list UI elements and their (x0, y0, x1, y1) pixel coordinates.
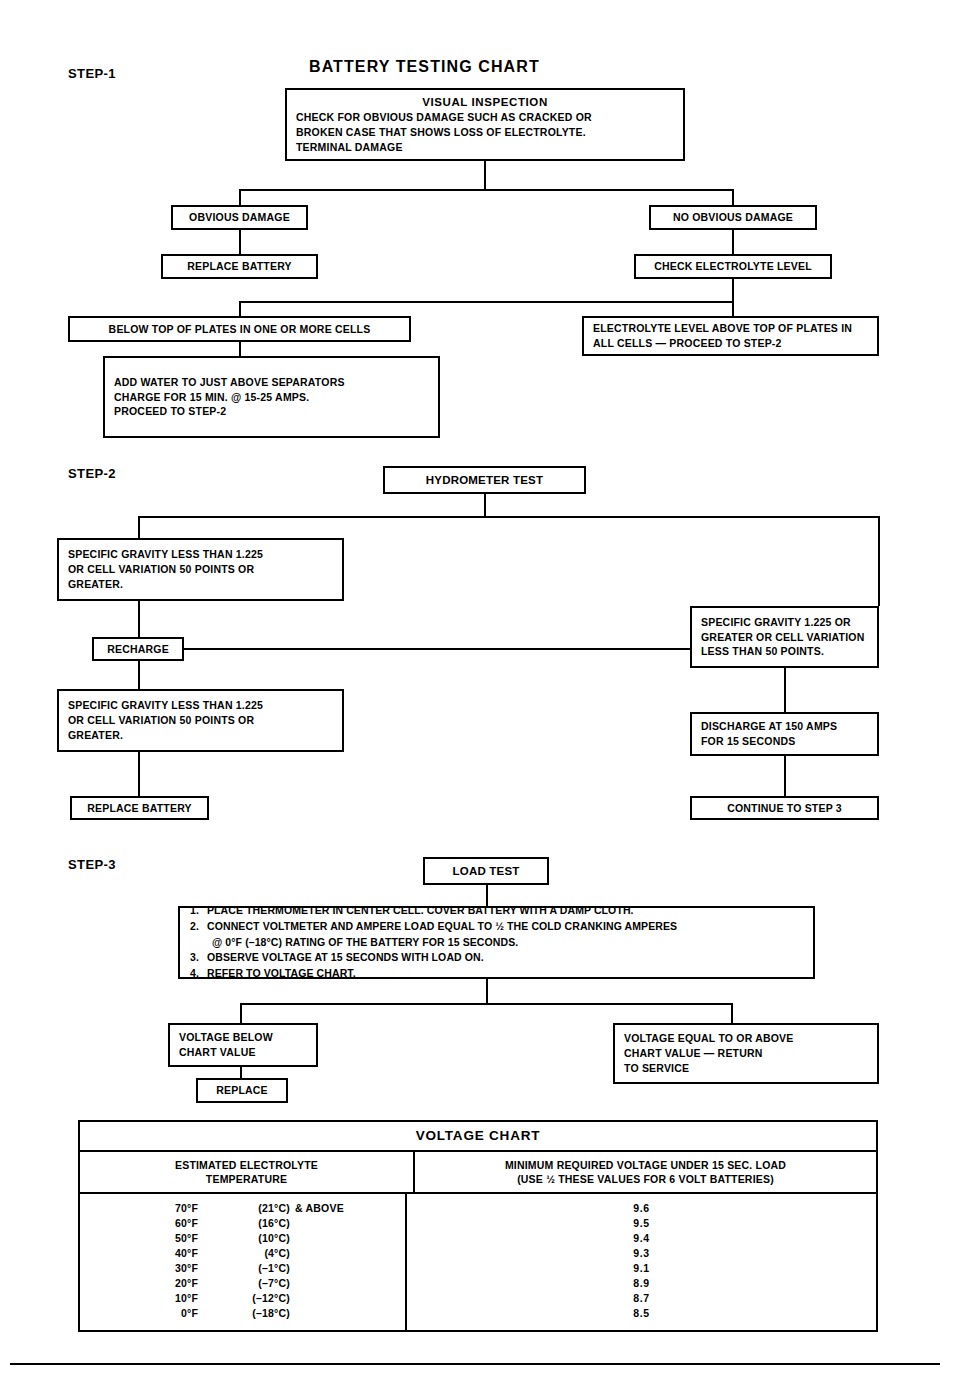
temperature-fahrenheit: 50°F (80, 1231, 198, 1246)
temp-header-line1: ESTIMATED ELECTROLYTE (84, 1158, 409, 1172)
instruction-number: 4. (190, 966, 207, 982)
node-electrolyte-above-plates: ELECTROLYTE LEVEL ABOVE TOP OF PLATES IN… (582, 316, 879, 356)
connector-hydro-split (138, 516, 880, 518)
node-load-test: LOAD TEST (423, 857, 549, 885)
node-low-gravity-1: SPECIFIC GRAVITY LESS THAN 1.225 OR CELL… (57, 538, 344, 601)
minimum-voltage-value: 9.5 (407, 1216, 876, 1231)
node-add-water: ADD WATER TO JUST ABOVE SEPARATORS CHARG… (103, 356, 440, 438)
temperature-fahrenheit: 10°F (80, 1291, 198, 1306)
connector-goodgravity-to-recharge (184, 648, 690, 650)
visual-inspection-line1: CHECK FOR OBVIOUS DAMAGE SUCH AS CRACKED… (287, 110, 683, 125)
node-obvious-damage: OBVIOUS DAMAGE (171, 205, 308, 230)
voltage-chart-header-row: ESTIMATED ELECTROLYTE TEMPERATURE MINIMU… (80, 1152, 876, 1194)
step-2-label: STEP-2 (68, 466, 116, 481)
low-gravity-2-line3: GREATER. (59, 728, 342, 743)
temperature-celsius: (16°C) (198, 1216, 290, 1231)
connector-check-down (732, 279, 734, 301)
temperature-extra-note: & ABOVE (290, 1201, 344, 1216)
table-row: 60°F(16°C) (80, 1216, 405, 1231)
temperature-fahrenheit: 20°F (80, 1276, 198, 1291)
node-below-top-of-plates: BELOW TOP OF PLATES IN ONE OR MORE CELLS (68, 316, 411, 342)
visual-inspection-line2: BROKEN CASE THAT SHOWS LOSS OF ELECTROLY… (287, 125, 683, 140)
node-discharge: DISCHARGE AT 150 AMPS FOR 15 SECONDS (690, 712, 879, 756)
continue-step3-label: CONTINUE TO STEP 3 (692, 801, 877, 816)
low-gravity-2-line2: OR CELL VARIATION 50 POINTS OR (59, 713, 342, 728)
temperature-celsius: (–12°C) (198, 1291, 290, 1306)
good-gravity-line1: SPECIFIC GRAVITY 1.225 OR (692, 615, 877, 630)
temperature-fahrenheit: 0°F (80, 1306, 198, 1321)
volt-header-line2: (USE ½ THESE VALUES FOR 6 VOLT BATTERIES… (419, 1172, 872, 1186)
instruction-item: 3.OBSERVE VOLTAGE AT 15 SECONDS WITH LOA… (190, 950, 803, 966)
temperature-column: 70°F(21°C)& ABOVE60°F(16°C)50°F(10°C)40°… (80, 1194, 407, 1329)
footer-rule (10, 1363, 940, 1365)
electrolyte-above-line1: ELECTROLYTE LEVEL ABOVE TOP OF PLATES IN (584, 321, 877, 336)
volt-header-line1: MINIMUM REQUIRED VOLTAGE UNDER 15 SEC. L… (419, 1158, 872, 1172)
add-water-line2: CHARGE FOR 15 MIN. @ 15-25 AMPS. (105, 390, 438, 405)
visual-inspection-line3: TERMINAL DAMAGE (287, 140, 683, 155)
temperature-fahrenheit: 40°F (80, 1246, 198, 1261)
node-replace-battery-step2: REPLACE BATTERY (70, 796, 209, 820)
check-electrolyte-label: CHECK ELECTROLYTE LEVEL (636, 259, 830, 274)
voltage-below-line2: CHART VALUE (170, 1045, 316, 1060)
voltage-column: 9.69.59.49.39.18.98.78.5 (407, 1194, 876, 1329)
voltage-ok-line2: CHART VALUE — RETURN (615, 1046, 877, 1061)
no-obvious-damage-label: NO OBVIOUS DAMAGE (651, 210, 815, 225)
visual-inspection-heading: VISUAL INSPECTION (287, 94, 683, 110)
temperature-fahrenheit: 60°F (80, 1216, 198, 1231)
temperature-celsius: (–1°C) (198, 1261, 290, 1276)
hydrometer-test-label: HYDROMETER TEST (385, 472, 584, 488)
temp-header-line2: TEMPERATURE (84, 1172, 409, 1186)
minimum-voltage-value: 9.1 (407, 1261, 876, 1276)
connector-check-split (239, 301, 734, 303)
table-row: 20°F(–7°C) (80, 1276, 405, 1291)
load-test-label: LOAD TEST (425, 863, 547, 879)
connector-to-obvious-damage (239, 189, 241, 205)
connector-to-voltage-ok (731, 1003, 733, 1023)
instruction-number: 3. (190, 950, 207, 966)
table-row: 50°F(10°C) (80, 1231, 405, 1246)
temperature-celsius: (–7°C) (198, 1276, 290, 1291)
node-replace-battery-step1: REPLACE BATTERY (161, 254, 318, 279)
electrolyte-above-line2: ALL CELLS — PROCEED TO STEP-2 (584, 336, 877, 351)
table-row: 70°F(21°C)& ABOVE (80, 1201, 405, 1216)
connector-hydro-down (484, 494, 486, 516)
connector-goodgravity-to-discharge (784, 668, 786, 712)
connector-instructions-down (486, 979, 488, 1003)
node-replace: REPLACE (196, 1078, 288, 1103)
connector-noobvious-to-check (732, 230, 734, 254)
low-gravity-1-line2: OR CELL VARIATION 50 POINTS OR (59, 562, 342, 577)
instruction-text: REFER TO VOLTAGE CHART. (207, 966, 803, 982)
node-load-test-instructions: 1.PLACE THERMOMETER IN CENTER CELL. COVE… (178, 906, 815, 979)
discharge-line1: DISCHARGE AT 150 AMPS (692, 719, 877, 734)
instruction-text: OBSERVE VOLTAGE AT 15 SECONDS WITH LOAD … (207, 950, 803, 966)
table-row: 30°F(–1°C) (80, 1261, 405, 1276)
temperature-celsius: (10°C) (198, 1231, 290, 1246)
table-row: 10°F(–12°C) (80, 1291, 405, 1306)
instruction-item: 1.PLACE THERMOMETER IN CENTER CELL. COVE… (190, 903, 803, 919)
voltage-ok-line1: VOLTAGE EQUAL TO OR ABOVE (615, 1031, 877, 1046)
instruction-number: 2. (190, 919, 207, 951)
below-top-plates-label: BELOW TOP OF PLATES IN ONE OR MORE CELLS (70, 322, 409, 337)
instruction-continuation: @ 0°F (–18°C) RATING OF THE BATTERY FOR … (207, 935, 803, 951)
connector-vi-split (239, 189, 734, 191)
voltage-chart-title: VOLTAGE CHART (80, 1122, 876, 1152)
minimum-voltage-value: 9.4 (407, 1231, 876, 1246)
node-continue-to-step3: CONTINUE TO STEP 3 (690, 796, 879, 820)
minimum-voltage-value: 8.9 (407, 1276, 876, 1291)
instruction-text: PLACE THERMOMETER IN CENTER CELL. COVER … (207, 903, 803, 919)
table-row: 0°F(–18°C) (80, 1306, 405, 1321)
replace-battery-step2-label: REPLACE BATTERY (72, 801, 207, 816)
connector-to-below-plates (239, 301, 241, 316)
temperature-celsius: (4°C) (198, 1246, 290, 1261)
replace-battery-step1-label: REPLACE BATTERY (163, 259, 316, 274)
connector-recharge-down (138, 661, 140, 689)
node-check-electrolyte-level: CHECK ELECTROLYTE LEVEL (634, 254, 832, 279)
step-3-label: STEP-3 (68, 857, 116, 872)
minimum-voltage-value: 8.5 (407, 1306, 876, 1321)
voltage-ok-line3: TO SERVICE (615, 1061, 877, 1076)
replace-label: REPLACE (198, 1083, 286, 1098)
connector-to-low-gravity-1 (138, 516, 140, 538)
add-water-line3: PROCEED TO STEP-2 (105, 404, 438, 419)
add-water-line1: ADD WATER TO JUST ABOVE SEPARATORS (105, 375, 438, 390)
node-voltage-below: VOLTAGE BELOW CHART VALUE (168, 1023, 318, 1067)
